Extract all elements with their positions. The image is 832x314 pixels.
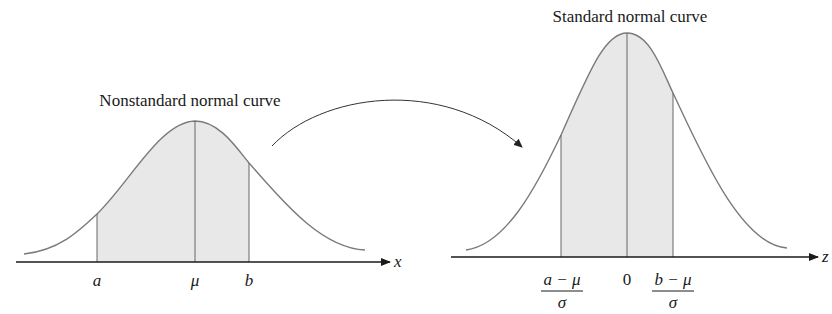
z-axis-label: z bbox=[821, 247, 829, 266]
x-axis-label: x bbox=[393, 252, 402, 271]
tick-label-lower-fraction: a − μ σ bbox=[541, 270, 583, 312]
tick-label-mu: μ bbox=[190, 271, 200, 290]
transform-arrow bbox=[272, 100, 522, 147]
upper-numerator: b − μ bbox=[654, 270, 691, 289]
normal-curve-diagram: Nonstandard normal curve x a μ b Standar… bbox=[0, 0, 832, 314]
tick-label-upper-fraction: b − μ σ bbox=[652, 270, 694, 312]
tick-label-b: b bbox=[245, 271, 254, 290]
right-panel-title: Standard normal curve bbox=[553, 7, 708, 26]
tick-label-zero: 0 bbox=[623, 270, 632, 289]
lower-numerator: a − μ bbox=[543, 270, 580, 289]
tick-label-a: a bbox=[93, 271, 102, 290]
upper-denominator: σ bbox=[669, 293, 678, 312]
left-panel-title: Nonstandard normal curve bbox=[99, 91, 280, 110]
left-panel: Nonstandard normal curve x a μ b bbox=[16, 91, 402, 290]
lower-denominator: σ bbox=[558, 293, 567, 312]
right-panel: Standard normal curve z a − μ σ 0 b − μ … bbox=[451, 7, 829, 312]
